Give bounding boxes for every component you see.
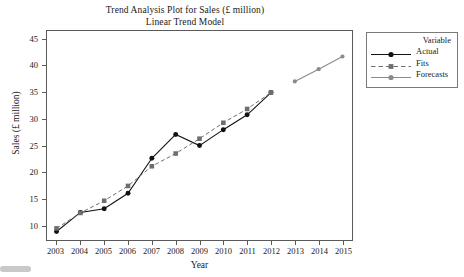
- data-point-marker: [126, 191, 131, 196]
- series-actual: [54, 90, 273, 234]
- chart-title-primary: Trend Analysis Plot for Sales (£ million…: [0, 4, 370, 16]
- y-tick-label: 45: [30, 34, 39, 43]
- x-tick-mark: [176, 241, 177, 245]
- data-point-marker: [245, 107, 250, 112]
- y-tick-label: 40: [30, 61, 39, 70]
- chart-title-secondary: Linear Trend Model: [0, 16, 370, 28]
- x-tick-mark: [104, 241, 105, 245]
- legend-item-fits[interactable]: Fits: [369, 58, 453, 70]
- x-axis-title: Year: [46, 260, 353, 270]
- x-tick-mark: [319, 241, 320, 245]
- x-tick-label: 2015: [335, 247, 352, 256]
- y-axis-title: Sales (£ million): [11, 73, 21, 173]
- legend-swatch-icon: [369, 69, 413, 80]
- legend-swatch-icon: [369, 58, 413, 69]
- legend-entries: ActualFitsForecasts: [369, 46, 453, 81]
- legend-label: Forecasts: [413, 69, 448, 80]
- data-point-marker: [221, 120, 226, 125]
- chart-legend: Variable ActualFitsForecasts: [366, 32, 458, 88]
- x-tick-mark: [295, 241, 296, 245]
- legend-title: Variable: [369, 35, 453, 46]
- y-tick-label: 20: [30, 168, 39, 177]
- series-fits: [54, 90, 273, 230]
- data-point-marker: [340, 54, 344, 58]
- y-tick-label: 10: [30, 222, 39, 231]
- x-tick-label: 2005: [95, 247, 112, 256]
- series-line: [57, 93, 271, 232]
- x-tick-mark: [56, 241, 57, 245]
- data-point-marker: [102, 198, 107, 203]
- chart-title-block: Trend Analysis Plot for Sales (£ million…: [0, 4, 370, 28]
- x-tick-label: 2011: [239, 247, 256, 256]
- y-tick-label: 15: [30, 195, 39, 204]
- x-tick-label: 2007: [143, 247, 160, 256]
- data-point-marker: [102, 206, 107, 211]
- data-point-marker: [126, 184, 131, 189]
- x-tick-label: 2004: [71, 247, 88, 256]
- legend-label: Actual: [413, 46, 439, 57]
- data-point-marker: [173, 132, 178, 137]
- x-tick-label: 2003: [47, 247, 64, 256]
- y-tick-label: 35: [30, 88, 39, 97]
- data-point-marker: [197, 136, 202, 141]
- data-point-marker: [269, 90, 274, 95]
- data-point-marker: [54, 226, 59, 231]
- legend-item-forecasts[interactable]: Forecasts: [369, 69, 453, 81]
- x-tick-mark: [271, 241, 272, 245]
- x-tick-mark: [128, 241, 129, 245]
- x-tick-label: 2006: [119, 247, 136, 256]
- x-tick-mark: [152, 241, 153, 245]
- y-tick-label: 30: [30, 115, 39, 124]
- x-tick-label: 2013: [287, 247, 304, 256]
- x-tick-label: 2010: [215, 247, 232, 256]
- x-tick-label: 2012: [263, 247, 280, 256]
- legend-item-actual[interactable]: Actual: [369, 46, 453, 58]
- x-tick-label: 2014: [311, 247, 328, 256]
- data-point-marker: [245, 112, 250, 117]
- series-line: [57, 93, 271, 229]
- x-tick-mark: [223, 241, 224, 245]
- legend-swatch-icon: [369, 46, 413, 57]
- data-point-marker: [197, 143, 202, 148]
- x-tick-label: 2009: [191, 247, 208, 256]
- data-point-marker: [173, 151, 178, 156]
- y-tick-label: 25: [30, 141, 39, 150]
- x-tick-mark: [247, 241, 248, 245]
- data-point-marker: [293, 79, 297, 83]
- horizontal-scrollbar-thumb[interactable]: [0, 266, 31, 272]
- legend-label: Fits: [413, 58, 429, 69]
- plot-area: [46, 30, 353, 241]
- x-tick-label: 2008: [167, 247, 184, 256]
- data-point-marker: [149, 156, 154, 161]
- x-tick-mark: [80, 241, 81, 245]
- data-point-marker: [221, 127, 226, 132]
- series-forecasts: [293, 54, 345, 83]
- trend-analysis-chart: Trend Analysis Plot for Sales (£ million…: [0, 0, 464, 277]
- data-point-marker: [317, 67, 321, 71]
- plot-series-canvas: [47, 31, 352, 240]
- data-point-marker: [78, 211, 83, 216]
- x-tick-mark: [343, 241, 344, 245]
- data-point-marker: [150, 164, 155, 169]
- y-axis-ticks: 1015202530354045: [0, 30, 46, 241]
- x-tick-mark: [200, 241, 201, 245]
